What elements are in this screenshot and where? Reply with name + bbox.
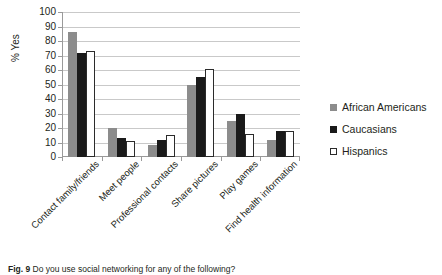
- bar: [276, 131, 285, 157]
- x-axis-tick: [181, 157, 182, 161]
- y-axis-tick-label: 60: [45, 65, 56, 75]
- y-axis-tick-label: 50: [45, 80, 56, 90]
- bar: [245, 134, 254, 157]
- x-axis-tick: [62, 157, 63, 161]
- y-axis-tick-label: 100: [39, 7, 56, 17]
- y-axis-tick-label: 90: [45, 22, 56, 32]
- bar: [68, 32, 77, 157]
- legend-item: Caucasians: [330, 124, 427, 135]
- bar-group: [141, 12, 181, 157]
- bar: [236, 114, 245, 158]
- bar: [148, 145, 157, 157]
- x-axis-tick: [260, 157, 261, 161]
- bar: [86, 51, 95, 157]
- caption-text: Do you use social networking for any of …: [33, 264, 236, 274]
- bar: [157, 140, 166, 157]
- bar: [126, 141, 135, 157]
- y-axis-tick-label: 20: [45, 123, 56, 133]
- x-axis-tick: [102, 157, 103, 161]
- bar-group: [102, 12, 142, 157]
- bar: [77, 53, 86, 157]
- legend-swatch-icon: [330, 104, 337, 111]
- legend-swatch-icon: [330, 126, 337, 133]
- legend-label: Caucasians: [342, 124, 397, 135]
- chart-legend: African AmericansCaucasiansHispanics: [330, 102, 427, 157]
- x-axis-category-label: Professional contacts: [109, 159, 180, 230]
- bar-group: [181, 12, 221, 157]
- bar: [196, 77, 205, 157]
- bar: [187, 85, 196, 158]
- y-axis-tick-label: 10: [45, 138, 56, 148]
- bar-group: [221, 12, 261, 157]
- legend-swatch-icon: [330, 148, 337, 155]
- legend-label: Hispanics: [342, 146, 388, 157]
- bar-group: [62, 12, 102, 157]
- bar: [166, 135, 175, 157]
- plot-area: 1009080706050403020100: [62, 12, 300, 157]
- bar: [285, 131, 294, 157]
- bar-group: [260, 12, 300, 157]
- figure-caption: Fig. 9 Do you use social networking for …: [8, 264, 235, 275]
- x-axis-tick: [299, 157, 300, 161]
- legend-label: African Americans: [342, 102, 427, 113]
- y-axis-tick-label: 70: [45, 51, 56, 61]
- legend-item: African Americans: [330, 102, 427, 113]
- x-axis-tick: [141, 157, 142, 161]
- bar: [117, 138, 126, 157]
- bar-groups: [62, 12, 300, 157]
- figure-number: Fig. 9: [8, 264, 30, 274]
- bar: [267, 140, 276, 157]
- x-axis-category-label: Find health information: [224, 159, 299, 234]
- bar: [227, 121, 236, 157]
- y-axis-tick-label: 30: [45, 109, 56, 119]
- bar: [205, 69, 214, 157]
- y-axis-title: % Yes: [10, 34, 21, 62]
- y-axis-tick-label: 0: [50, 152, 56, 162]
- bar: [108, 128, 117, 157]
- legend-item: Hispanics: [330, 146, 427, 157]
- y-axis-tick-label: 40: [45, 94, 56, 104]
- x-axis-category-label: Contact family/friends: [29, 159, 101, 231]
- x-axis-tick: [221, 157, 222, 161]
- y-axis-tick-label: 80: [45, 36, 56, 46]
